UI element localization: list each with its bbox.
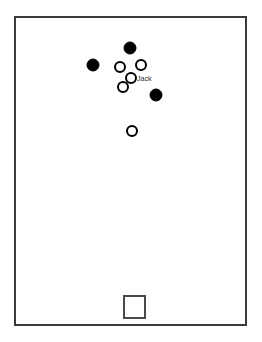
filled-circle-marker[interactable] — [150, 89, 162, 101]
filled-circle-marker[interactable] — [87, 59, 99, 71]
open-circle-marker[interactable] — [127, 126, 137, 136]
marker-label: Jack — [137, 75, 152, 82]
filled-circle-marker[interactable] — [124, 42, 136, 54]
open-circle-marker[interactable] — [136, 60, 146, 70]
scene-svg: Jack — [0, 0, 262, 342]
diagram-canvas: Jack — [0, 0, 262, 342]
open-circle-marker[interactable] — [118, 82, 128, 92]
room-boundary — [15, 17, 246, 325]
open-circle-marker[interactable] — [115, 62, 125, 72]
open-circle-marker[interactable] — [126, 73, 136, 83]
door-marker[interactable] — [124, 296, 145, 318]
